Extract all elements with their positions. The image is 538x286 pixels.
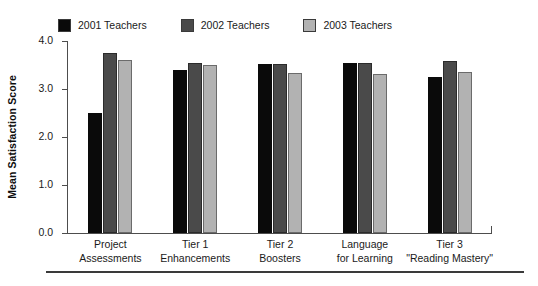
bar-group-bars [258,41,302,233]
x-axis-category-label: Languagefor Learning [337,238,393,265]
x-axis-category-label-line: Tier 1 [160,238,230,252]
x-axis-end-tick [491,226,492,234]
bar-group: ProjectAssessments [88,41,132,233]
bar-group: Tier 2Boosters [258,41,302,233]
y-axis-tick-label: 0.0 [38,226,53,239]
x-axis-category-label-line: Language [337,238,393,252]
y-axis-tick: 3.0 [62,89,68,90]
x-axis-category-label-line: for Learning [337,252,393,266]
y-axis-tick: 4.0 [62,41,68,42]
legend-swatch-2003 [303,19,316,32]
x-axis-category-label-line: Enhancements [160,252,230,266]
y-axis-tick-label: 3.0 [38,82,53,95]
bar[interactable] [273,64,287,233]
y-axis-tick: 0.0 [62,233,68,234]
x-axis-category-label-line: "Reading Mastery" [406,252,493,266]
legend-swatch-2001 [58,19,71,32]
y-axis-tick-label: 2.0 [38,130,53,143]
plot-area: 0.01.02.03.04.0 ProjectAssessmentsTier 1… [68,41,492,233]
y-axis-tick: 1.0 [62,185,68,186]
legend-label-2002: 2002 Teachers [201,19,270,31]
chart-legend: 2001 Teachers 2002 Teachers 2003 Teacher… [58,17,426,33]
x-axis-category-label-line: Project [79,238,141,252]
bottom-divider [46,271,524,273]
bar[interactable] [188,63,202,233]
bar-chart-figure: 2001 Teachers 2002 Teachers 2003 Teacher… [0,0,538,286]
bar[interactable] [173,70,187,233]
bar-group: Languagefor Learning [343,41,387,233]
y-axis-tick-label: 4.0 [38,34,53,47]
x-axis-category-label-line: Tier 2 [259,238,300,252]
x-axis-line [67,233,492,234]
legend-item-2001: 2001 Teachers [58,19,147,32]
bar[interactable] [118,60,132,233]
bar[interactable] [343,63,357,233]
legend-label-2003: 2003 Teachers [323,19,392,31]
x-axis-category-label: ProjectAssessments [79,238,141,265]
bar[interactable] [458,72,472,233]
x-axis-category-label-line: Assessments [79,252,141,266]
bar-group-bars [428,41,472,233]
legend-item-2002: 2002 Teachers [181,19,270,32]
legend-swatch-2002 [181,19,194,32]
bar[interactable] [373,74,387,233]
bar[interactable] [428,77,442,233]
bar-group: Tier 1Enhancements [173,41,217,233]
bar[interactable] [288,73,302,233]
legend-label-2001: 2001 Teachers [78,19,147,31]
x-axis-category-label: Tier 1Enhancements [160,238,230,265]
bar[interactable] [258,64,272,233]
bar[interactable] [103,53,117,233]
bar-group-bars [88,41,132,233]
bar-group: Tier 3"Reading Mastery" [428,41,472,233]
bar[interactable] [443,61,457,233]
legend-item-2003: 2003 Teachers [303,19,392,32]
bar-group-bars [343,41,387,233]
y-axis-title: Mean Satisfaction Score [6,41,20,233]
x-axis-category-label-line: Boosters [259,252,300,266]
x-axis-category-label: Tier 3"Reading Mastery" [406,238,493,265]
bar[interactable] [358,63,372,233]
x-axis-category-label-line: Tier 3 [406,238,493,252]
bar[interactable] [203,65,217,233]
y-axis-tick-label: 1.0 [38,178,53,191]
x-axis-category-label: Tier 2Boosters [259,238,300,265]
bar-group-bars [173,41,217,233]
bar[interactable] [88,113,102,233]
y-axis-tick: 2.0 [62,137,68,138]
